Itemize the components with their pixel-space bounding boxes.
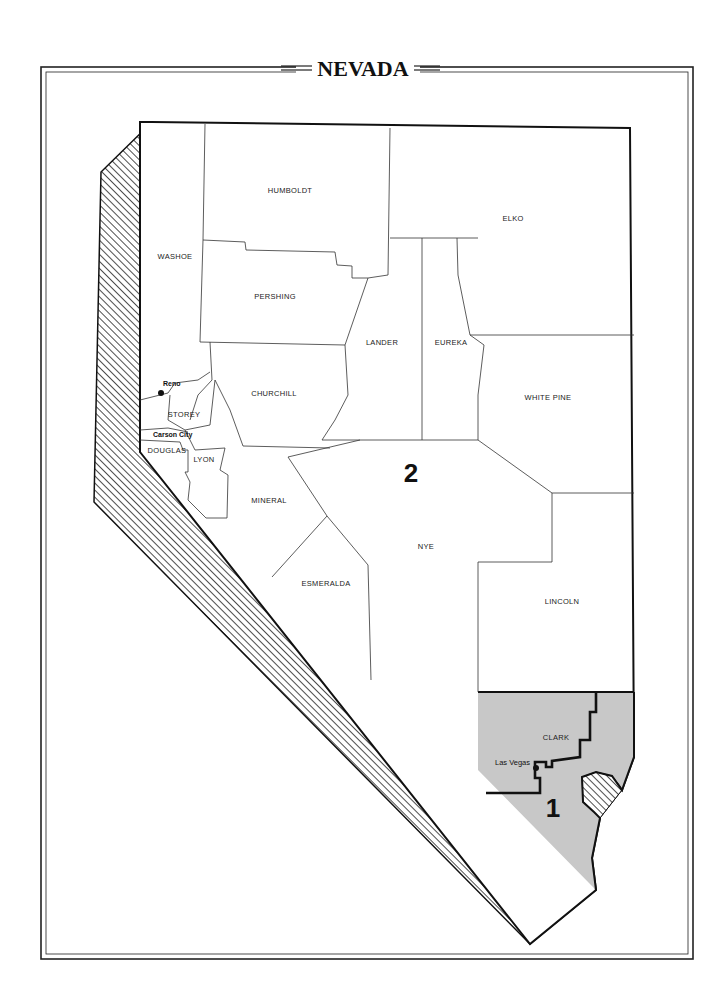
- county-label-lincoln: LINCOLN: [545, 597, 580, 606]
- las-vegas-dot-icon: [533, 765, 539, 771]
- district-1-label: 1: [546, 793, 560, 823]
- city-label-reno: Reno: [163, 380, 181, 387]
- reno-dot-icon: [158, 390, 164, 396]
- map-title: NEVADA: [281, 54, 440, 82]
- county-label-lyon: LYON: [193, 455, 214, 464]
- county-label-elko: ELKO: [502, 214, 523, 223]
- county-label-lander: LANDER: [366, 338, 399, 347]
- title-text: NEVADA: [317, 56, 408, 81]
- county-label-churchill: CHURCHILL: [251, 389, 297, 398]
- county-label-nye: NYE: [418, 542, 434, 551]
- city-label-carson-city: Carson City: [153, 431, 192, 439]
- county-label-clark: CLARK: [543, 733, 570, 742]
- district-2-label: 2: [404, 458, 418, 488]
- county-label-eureka: EUREKA: [435, 338, 468, 347]
- nevada-district-map: NEVADA: [0, 0, 716, 1004]
- county-label-douglas: DOUGLAS: [148, 446, 187, 455]
- county-label-esmeralda: ESMERALDA: [302, 579, 351, 588]
- county-label-washoe: WASHOE: [158, 252, 193, 261]
- county-label-pershing: PERSHING: [254, 292, 296, 301]
- county-label-mineral: MINERAL: [251, 496, 286, 505]
- county-label-humboldt: HUMBOLDT: [268, 186, 313, 195]
- county-label-storey: STOREY: [168, 410, 201, 419]
- city-label-las-vegas: Las Vegas: [495, 758, 530, 767]
- county-label-white-pine: WHITE PINE: [525, 393, 572, 402]
